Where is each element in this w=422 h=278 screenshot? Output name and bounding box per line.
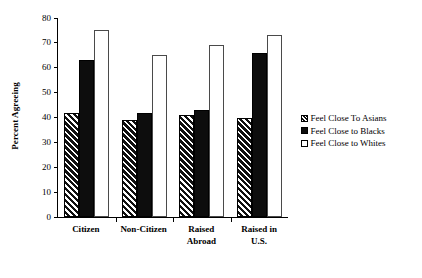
y-axis-tick-label: 80 <box>42 13 54 22</box>
x-axis-tick-mark <box>231 217 232 222</box>
x-axis-labels: CitizenNon-CitizenRaised AbroadRaised in… <box>57 224 288 247</box>
legend-swatch-icon <box>301 115 308 122</box>
y-axis-title-label: Percent Agreeing <box>10 82 20 150</box>
bar-series-0[interactable] <box>64 113 79 217</box>
bar-series-0[interactable] <box>237 118 252 218</box>
y-axis-tick-label: 10 <box>42 187 54 196</box>
bar-series-1[interactable] <box>194 110 209 217</box>
y-axis-tick-label: 20 <box>42 162 54 171</box>
y-axis-tick-label: 60 <box>42 63 54 72</box>
y-axis-tick-label: 40 <box>42 113 54 122</box>
bar-series-0[interactable] <box>122 120 137 217</box>
legend-item-label: Feel Close to Blacks <box>311 126 385 136</box>
bar-series-1[interactable] <box>79 60 94 217</box>
y-axis-title: Percent Agreeing <box>4 0 26 232</box>
bar-group <box>231 18 289 217</box>
legend-item[interactable]: Feel Close To Asians <box>301 113 386 123</box>
x-axis-tick-mark <box>173 217 174 222</box>
y-axis-tick-label: 50 <box>42 88 54 97</box>
x-axis-category-label: Raised in U.S. <box>230 224 288 247</box>
bar-group <box>116 18 174 217</box>
bar-series-1[interactable] <box>252 53 267 217</box>
y-axis-tick-label: 30 <box>42 137 54 146</box>
bar-series-0[interactable] <box>179 115 194 217</box>
legend-item[interactable]: Feel Close to Blacks <box>301 126 386 136</box>
y-axis-tick-label: 70 <box>42 38 54 47</box>
x-axis-tick-mark <box>116 217 117 222</box>
plot-area: 01020304050607080 <box>57 18 288 218</box>
bar-series-2[interactable] <box>152 55 167 217</box>
chart-legend: Feel Close To AsiansFeel Close to Blacks… <box>301 113 386 148</box>
x-axis-category-label: Raised Abroad <box>173 224 231 247</box>
y-axis-tick-label: 0 <box>47 212 55 221</box>
plot-inner: 01020304050607080 <box>58 18 288 217</box>
bar-chart: Percent Agreeing 01020304050607080 Citiz… <box>0 0 422 278</box>
x-axis-category-label: Non-Citizen <box>115 224 173 247</box>
bar-groups <box>58 18 288 217</box>
legend-swatch-icon <box>301 127 308 134</box>
x-axis-category-label: Citizen <box>57 224 115 247</box>
bar-group <box>173 18 231 217</box>
bar-series-2[interactable] <box>267 35 282 217</box>
legend-item[interactable]: Feel Close to Whites <box>301 138 386 148</box>
legend-item-label: Feel Close To Asians <box>311 113 387 123</box>
bar-group <box>58 18 116 217</box>
bar-series-2[interactable] <box>209 45 224 217</box>
legend-swatch-icon <box>301 140 308 147</box>
bar-series-2[interactable] <box>94 30 109 217</box>
bar-series-1[interactable] <box>137 113 152 217</box>
legend-item-label: Feel Close to Whites <box>311 138 386 148</box>
